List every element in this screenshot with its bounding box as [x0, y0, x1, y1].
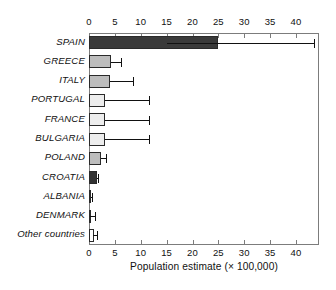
category-label-poland: POLAND — [1, 151, 85, 162]
x-tick-20 — [193, 240, 194, 245]
category-label-italy: ITALY — [1, 74, 85, 85]
category-label-other-countries: Other countries — [1, 228, 85, 239]
category-label-portugal: PORTUGAL — [1, 93, 85, 104]
category-label-bulgaria: BULGARIA — [1, 132, 85, 143]
x-tick-35 — [270, 33, 271, 38]
error-cap-other-countries — [97, 231, 98, 240]
x-tick-40 — [296, 33, 297, 38]
category-label-spain: SPAIN — [1, 36, 85, 47]
bar-italy — [89, 75, 110, 88]
x-axis-title: Population estimate (× 100,000) — [89, 261, 319, 272]
x-tick-label-5: 5 — [103, 247, 127, 258]
x-tick-15 — [167, 240, 168, 245]
x-tick-5 — [115, 240, 116, 245]
bar-chart: 0510152025303540 0510152025303540 SPAING… — [0, 0, 336, 290]
error-cap-poland — [106, 154, 107, 163]
x-tick-label-15: 15 — [155, 16, 179, 27]
error-bar-france — [105, 120, 149, 121]
error-cap-france — [149, 116, 150, 125]
category-label-greece: GREECE — [1, 55, 85, 66]
bar-poland — [89, 152, 101, 165]
error-cap-portugal — [149, 96, 150, 105]
category-label-albania: ALBANIA — [1, 190, 85, 201]
category-label-denmark: DENMARK — [1, 209, 85, 220]
error-bar-bulgaria — [105, 139, 149, 140]
x-tick-label-25: 25 — [206, 247, 230, 258]
bar-bulgaria — [89, 133, 105, 146]
x-tick-label-40: 40 — [284, 16, 308, 27]
x-tick-label-20: 20 — [181, 247, 205, 258]
x-tick-label-5: 5 — [103, 16, 127, 27]
bar-france — [89, 113, 105, 126]
bar-greece — [89, 55, 111, 68]
bar-portugal — [89, 94, 105, 107]
x-tick-35 — [270, 240, 271, 245]
error-cap-spain — [314, 39, 315, 48]
error-bar-italy — [110, 81, 133, 82]
x-tick-label-15: 15 — [155, 247, 179, 258]
error-cap-albania — [92, 193, 93, 202]
bar-croatia — [89, 171, 97, 184]
x-tick-30 — [244, 240, 245, 245]
x-tick-label-20: 20 — [181, 16, 205, 27]
error-cap-bulgaria — [149, 135, 150, 144]
error-bar-spain — [167, 43, 314, 44]
error-bar-portugal — [105, 100, 149, 101]
x-tick-25 — [218, 240, 219, 245]
x-tick-25 — [218, 33, 219, 38]
error-cap-denmark — [95, 212, 96, 221]
error-bar-greece — [111, 62, 121, 63]
error-cap-greece — [121, 58, 122, 67]
x-tick-label-0: 0 — [77, 247, 101, 258]
x-tick-label-25: 25 — [206, 16, 230, 27]
x-tick-label-30: 30 — [232, 247, 256, 258]
x-tick-10 — [141, 240, 142, 245]
error-cap-croatia — [98, 174, 99, 183]
category-label-france: FRANCE — [1, 113, 85, 124]
x-tick-label-35: 35 — [258, 16, 282, 27]
x-tick-label-0: 0 — [77, 16, 101, 27]
x-tick-label-10: 10 — [129, 247, 153, 258]
error-cap-italy — [133, 77, 134, 86]
x-tick-label-40: 40 — [284, 247, 308, 258]
x-tick-label-10: 10 — [129, 16, 153, 27]
x-tick-30 — [244, 33, 245, 38]
x-tick-40 — [296, 240, 297, 245]
x-tick-label-35: 35 — [258, 247, 282, 258]
x-tick-label-30: 30 — [232, 16, 256, 27]
category-label-croatia: CROATIA — [1, 171, 85, 182]
